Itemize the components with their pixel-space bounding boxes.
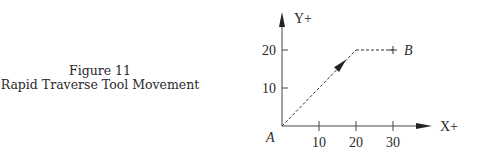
- y-tick-20: 20: [262, 43, 276, 58]
- y-axis: Y+ 20 10: [262, 11, 312, 126]
- x-axis-arrow-icon: [416, 123, 432, 129]
- end-point-label: B: [404, 43, 413, 58]
- x-axis: X+ 10 20 30: [282, 119, 458, 150]
- y-axis-arrow-icon: [279, 12, 285, 27]
- y-tick-10: 10: [262, 81, 276, 96]
- x-axis-label: X+: [440, 119, 458, 134]
- x-tick-10: 10: [312, 135, 326, 150]
- y-axis-label: Y+: [294, 11, 312, 26]
- start-point-label: A: [265, 130, 275, 145]
- x-tick-20: 20: [349, 135, 363, 150]
- traverse-diagram: Y+ 20 10 X+ 10 20 30 A B: [0, 0, 483, 159]
- x-tick-30: 30: [386, 135, 400, 150]
- tool-path: [282, 46, 397, 126]
